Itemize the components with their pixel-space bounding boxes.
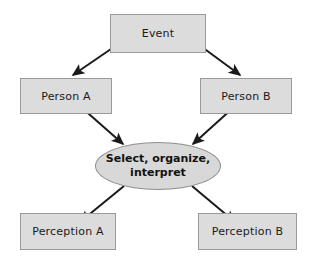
node-person-b: Person B [200,78,292,114]
node-person-a-label: Person A [41,90,91,103]
node-perception-a: Perception A [20,213,116,250]
node-person-a: Person A [20,78,112,114]
node-perception-b: Perception B [198,213,297,250]
node-event-label: Event [142,27,175,40]
perception-flow-diagram: Event Person A Person B Select, organize… [0,0,312,262]
node-process-label: Select, organize, interpret [100,152,216,180]
node-process-label-line1: Select, organize, [106,152,210,165]
node-perception-a-label: Perception A [32,225,104,238]
node-event: Event [110,14,206,53]
node-process-select-organize-interpret: Select, organize, interpret [95,142,221,190]
node-person-b-label: Person B [221,90,271,103]
node-perception-b-label: Perception B [212,225,284,238]
node-process-label-line2: interpret [130,166,186,179]
